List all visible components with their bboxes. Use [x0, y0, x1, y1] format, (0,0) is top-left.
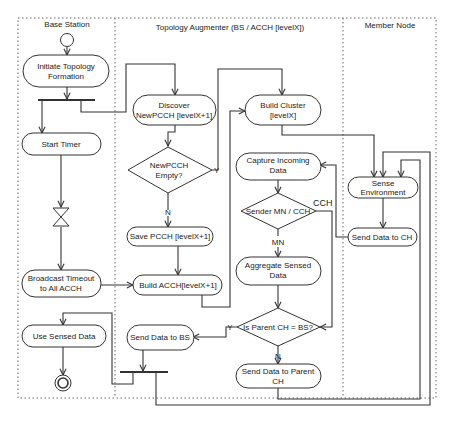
svg-text:Aggregate Sensed: Aggregate Sensed	[245, 261, 311, 270]
svg-text:Initiate Topology: Initiate Topology	[37, 62, 95, 71]
svg-text:Data: Data	[270, 166, 287, 175]
svg-text:Is Parent CH = BS?: Is Parent CH = BS?	[243, 323, 314, 332]
lane-header-member-node: Member Node	[365, 21, 416, 30]
svg-text:Discover: Discover	[158, 101, 189, 110]
svg-text:Data: Data	[270, 271, 287, 280]
edge-label-sender-mn: MN	[272, 238, 285, 247]
svg-text:Sense: Sense	[372, 179, 395, 188]
svg-text:Capture Incoming: Capture Incoming	[246, 156, 309, 165]
edge-label-parent-no: N	[275, 352, 281, 361]
edge-label-newpcch-yes: Y	[214, 166, 220, 175]
svg-text:Build ACCH[levelX+1]: Build ACCH[levelX+1]	[139, 281, 217, 290]
edge-label-sender-cch: CCH	[313, 198, 333, 208]
activity-capture-incoming-data: Capture Incoming Data	[236, 153, 321, 180]
svg-text:Empty?: Empty?	[155, 171, 183, 180]
svg-text:[levelX]: [levelX]	[270, 111, 296, 120]
svg-text:Send Data to BS: Send Data to BS	[130, 333, 190, 342]
svg-text:Send Data to Parent: Send Data to Parent	[242, 367, 315, 376]
svg-text:NewPCCH: NewPCCH	[150, 161, 189, 170]
svg-text:Start Timer: Start Timer	[41, 140, 80, 149]
activity-sense-environment: Sense Environment	[348, 177, 418, 198]
svg-text:Formation: Formation	[48, 72, 84, 81]
decision-newpcch-empty: NewPCCH Empty?	[128, 147, 212, 193]
svg-text:Save PCCH [levelX+1]: Save PCCH [levelX+1]	[130, 232, 211, 241]
svg-text:Send Data to CH: Send Data to CH	[352, 233, 413, 242]
decision-is-parent-bs: Is Parent CH = BS?	[237, 308, 320, 346]
svg-text:Sender MN / CCH: Sender MN / CCH	[246, 207, 311, 216]
activity-save-pcch: Save PCCH [levelX+1]	[127, 227, 213, 246]
activity-initiate-topology: Initiate Topology Formation	[23, 55, 109, 87]
decision-sender-type: Sender MN / CCH	[241, 193, 316, 229]
svg-text:NewPCCH [levelX+1]: NewPCCH [levelX+1]	[136, 111, 212, 120]
activity-use-sensed-data: Use Sensed Data	[22, 325, 106, 347]
activity-diagram: Base Station Topology Augmenter (BS / AC…	[0, 0, 451, 430]
edge-label-parent-yes: Y	[227, 323, 233, 332]
svg-text:Environment: Environment	[361, 188, 407, 197]
svg-text:Broadcast Timeout: Broadcast Timeout	[28, 274, 95, 283]
activity-build-cluster: Build Cluster [levelX]	[245, 95, 321, 125]
activity-broadcast-timeout: Broadcast Timeout to All ACCH	[22, 270, 101, 297]
activity-send-data-to-parent-ch: Send Data to Parent CH	[236, 364, 321, 388]
connectors	[42, 47, 430, 405]
activity-start-timer: Start Timer	[22, 133, 101, 155]
svg-text:Build Cluster: Build Cluster	[260, 101, 306, 110]
activity-build-acch: Build ACCH[levelX+1]	[133, 275, 222, 295]
timer-hourglass-icon	[53, 208, 69, 226]
activity-discover-newpcch: Discover NewPCCH [levelX+1]	[133, 95, 216, 125]
svg-text:Use Sensed Data: Use Sensed Data	[33, 332, 96, 341]
end-node-icon	[55, 375, 71, 391]
start-node-icon	[61, 34, 74, 47]
activity-aggregate-sensed-data: Aggregate Sensed Data	[236, 257, 321, 285]
activity-send-data-to-ch: Send Data to CH	[348, 228, 417, 246]
edge-label-newpcch-no: N	[165, 208, 171, 217]
svg-text:CH: CH	[272, 377, 284, 386]
svg-text:to All ACCH: to All ACCH	[40, 284, 82, 293]
lane-header-topology-augmenter: Topology Augmenter (BS / ACCH [levelX])	[156, 23, 305, 32]
lane-header-base-station: Base Station	[44, 20, 89, 29]
activity-send-data-to-bs: Send Data to BS	[127, 325, 194, 350]
